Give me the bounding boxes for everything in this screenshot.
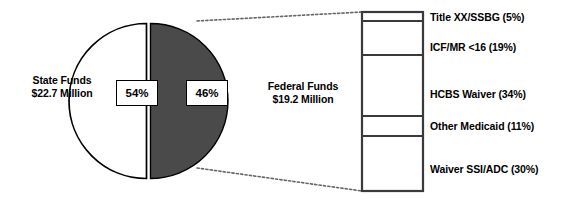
connector-line-top (197, 12, 362, 21)
segment-label-icf-mr-under-16: ICF/MR <16 (19%) (430, 41, 516, 53)
state-funds-title: State Funds (12, 74, 112, 87)
segment-label-hcbs-waiver: HCBS Waiver (34%) (430, 88, 526, 100)
state-funds-label: State Funds $22.7 Million (12, 74, 112, 100)
federal-funds-percent-box: 46% (186, 80, 228, 106)
segment-label-waiver-ssi-adc: Waiver SSI/ADC (30%) (430, 163, 538, 175)
federal-funds-label: Federal Funds $19.2 Million (250, 80, 356, 106)
breakout-bar (362, 12, 423, 191)
segment-label-other-medicaid: Other Medicaid (11%) (430, 120, 534, 132)
funding-breakdown-figure: State Funds $22.7 Million Federal Funds … (0, 0, 565, 203)
state-funds-percent-box: 54% (116, 80, 158, 106)
state-funds-amount: $22.7 Million (12, 87, 112, 100)
segment-label-title-xx-ssbg: Title XX/SSBG (5%) (430, 11, 524, 23)
connector-line-bottom (197, 168, 362, 191)
federal-funds-title: Federal Funds (250, 80, 356, 93)
federal-funds-amount: $19.2 Million (250, 93, 356, 106)
